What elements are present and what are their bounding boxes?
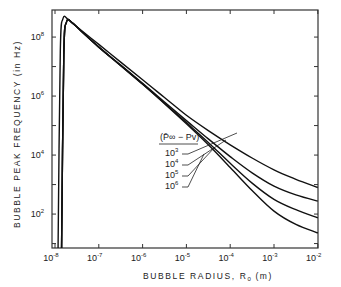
x-tick-base: 10 (306, 253, 316, 263)
x-axis-title-main: BUBBLE RADIUS, R (143, 271, 247, 281)
y-tick-exp: 2 (41, 208, 45, 214)
y-tick-exp: 8 (41, 31, 45, 37)
x-tick-label: 10-8 (43, 252, 59, 263)
x-tick-exp: -5 (185, 252, 191, 258)
x-axis-title-unit: (m) (255, 271, 273, 281)
x-tick-base: 10 (131, 253, 141, 263)
y-tick-base: 10 (31, 150, 41, 160)
legend-leader-line (182, 147, 215, 176)
y-tick-exp: 4 (41, 149, 45, 155)
x-tick-exp: -4 (229, 252, 235, 258)
legend-title: (P̄∞ − Pv) (160, 132, 199, 142)
y-tick-label: 106 (31, 90, 45, 101)
bubble-frequency-chart: 10-810-710-610-510-410-310-2 10210410610… (0, 0, 341, 287)
legend-entry-label: 106 (165, 180, 179, 191)
x-tick-label: 10-2 (306, 252, 322, 263)
y-axis-title: BUBBLE PEAK FREQUENCY (in Hz) (12, 40, 22, 228)
y-tick-label: 102 (31, 208, 45, 219)
x-tick-label: 10-4 (219, 252, 235, 263)
legend-entry-label: 105 (165, 169, 179, 180)
x-tick-base: 10 (175, 253, 185, 263)
x-tick-exp: -7 (97, 252, 103, 258)
x-tick-exp: -8 (53, 252, 59, 258)
y-tick-exp: 6 (41, 90, 45, 96)
y-tick-base: 10 (31, 32, 41, 42)
x-tick-label: 10-7 (87, 252, 103, 263)
x-tick-label: 10-6 (131, 252, 147, 263)
x-axis-title: BUBBLE RADIUS, R0(m) (143, 271, 273, 282)
x-tick-exp: -2 (316, 252, 322, 258)
y-tick-base: 10 (31, 209, 41, 219)
legend-entry-label: 103 (165, 147, 179, 158)
x-tick-label: 10-5 (175, 252, 191, 263)
y-tick-label: 104 (31, 149, 45, 160)
plot-frame (52, 10, 318, 248)
y-tick-base: 10 (31, 91, 41, 101)
x-tick-label: 10-3 (262, 252, 278, 263)
x-axis-title-sub: 0 (248, 276, 253, 282)
x-tick-base: 10 (219, 253, 229, 263)
y-tick-label: 108 (31, 31, 45, 42)
x-tick-base: 10 (87, 253, 97, 263)
x-tick-exp: -6 (141, 252, 147, 258)
x-tick-exp: -3 (272, 252, 278, 258)
legend-entry-label: 104 (165, 158, 179, 169)
x-tick-base: 10 (43, 253, 53, 263)
x-tick-base: 10 (262, 253, 272, 263)
